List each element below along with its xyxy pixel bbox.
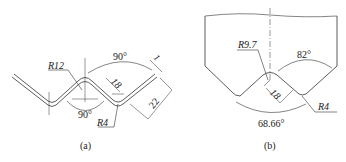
label-depth-b: 18 [268,87,283,102]
label-r97: R9.7 [237,39,258,50]
label-angle-top-a: 90° [113,51,127,62]
label-angle-bottom-a: 90° [78,109,92,120]
label-r12: R12 [47,60,64,71]
diagram-canvas: R12 90° 90° R4 18 22 1 (a) R9.7 82° 68.6… [0,0,346,162]
label-depth-a: 18 [109,76,124,91]
caption-b: (b) [264,140,276,152]
figure-b-labels: R9.7 82° 68.66° R4 18 (b) [237,39,329,152]
figure-a [12,58,172,127]
caption-a: (a) [80,140,91,152]
label-angle-bottom-b: 68.66° [258,118,285,129]
label-r4-b: R4 [317,101,329,112]
label-leg-length: 22 [146,96,161,111]
label-thickness: 1 [152,52,162,62]
label-r4-a: R4 [96,117,108,128]
label-angle-top-b: 82° [297,49,311,60]
